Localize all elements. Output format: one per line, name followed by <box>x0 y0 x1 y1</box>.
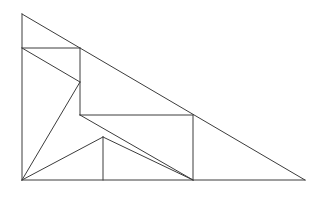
line-hypotenuse <box>22 14 305 180</box>
line-lower-diagonal-to-base <box>103 137 193 180</box>
figure-container <box>0 0 326 201</box>
line-mid-diagonal <box>80 115 193 180</box>
geometric-diagram <box>0 0 326 201</box>
figure-lines <box>22 14 305 180</box>
line-inner-diagonal-upper <box>22 48 80 82</box>
line-inner-diagonal-to-corner <box>22 82 80 180</box>
